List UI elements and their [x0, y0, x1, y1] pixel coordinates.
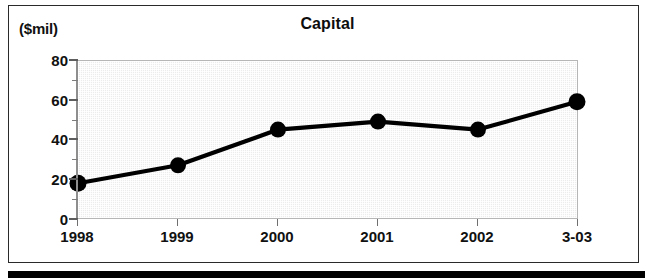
y-tick-60: [69, 99, 78, 101]
x-tick-1998: [77, 219, 78, 226]
y-label-60: 60: [22, 92, 68, 109]
series-plot: [77, 60, 578, 219]
data-point-1999: [170, 157, 186, 173]
y-tick-minor-30: [72, 159, 78, 160]
y-tick-minor-70: [72, 80, 78, 81]
x-tick-2002: [477, 219, 478, 226]
y-tick-minor-10: [72, 199, 78, 200]
y-tick-20: [69, 178, 78, 180]
x-label-2000: 2000: [234, 228, 320, 245]
data-point-2001: [370, 114, 386, 130]
y-tick-minor-50: [72, 120, 78, 121]
y-label-20: 20: [22, 171, 68, 188]
bottom-black-rule: [8, 271, 645, 278]
y-label-40: 40: [22, 131, 68, 148]
x-label-2001: 2001: [334, 228, 420, 245]
y-label-80: 80: [22, 52, 68, 69]
chart-page: ($mil) Capital 80 60 40 20 0 1998 1: [0, 0, 649, 279]
y-tick-80: [69, 59, 78, 61]
capital-line: [78, 102, 577, 184]
y-label-0: 0: [22, 211, 68, 228]
x-label-1999: 1999: [134, 228, 220, 245]
x-tick-2001: [377, 219, 378, 226]
x-tick-2000: [277, 219, 278, 226]
plot-area: [77, 60, 578, 219]
y-tick-40: [69, 138, 78, 140]
data-point-2002: [470, 122, 486, 138]
data-point-2000: [270, 122, 286, 138]
x-tick-3-03: [577, 219, 578, 226]
x-label-3-03: 3-03: [534, 228, 620, 245]
x-label-2002: 2002: [434, 228, 520, 245]
data-point-3-03: [569, 93, 586, 110]
x-label-1998: 1998: [34, 228, 120, 245]
x-tick-1999: [177, 219, 178, 226]
chart-title: Capital: [77, 15, 578, 33]
